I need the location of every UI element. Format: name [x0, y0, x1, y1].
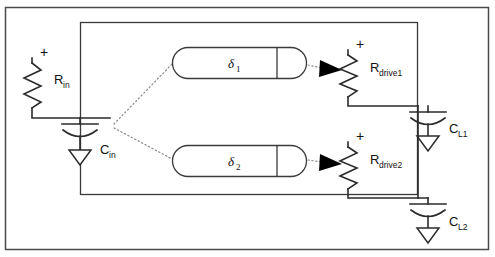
- r-drive1-label-subscript: drive1: [379, 68, 402, 78]
- c-in-label-subscript: in: [109, 150, 116, 160]
- dotted-link-to-delta1: [114, 62, 174, 124]
- ground-icon-c-in: [69, 150, 91, 165]
- r-drive1-label: R: [370, 60, 379, 75]
- delta2-label: δ: [228, 154, 235, 169]
- arrowhead-icon-drive1: [319, 60, 342, 77]
- r-drive2-bottom-lead: [348, 189, 428, 198]
- c-l2-label-subscript: L2: [458, 222, 468, 232]
- r-in-zigzag: [24, 63, 41, 108]
- r-drive2-label: R: [370, 152, 379, 167]
- r-in-plus-sign: +: [40, 44, 48, 60]
- r-drive2-zigzag: [340, 147, 357, 189]
- delta1-label-subscript: 1: [236, 64, 241, 74]
- c-l2-label: C: [449, 214, 458, 229]
- r-in-bottom-lead: [32, 108, 110, 118]
- c-l1-label-subscript: L1: [458, 129, 468, 139]
- c-in-label: C: [100, 142, 109, 157]
- r-drive1-plus-sign: +: [356, 36, 364, 52]
- r-drive1-zigzag: [340, 55, 357, 97]
- r-drive2-label-subscript: drive2: [379, 160, 402, 170]
- r-drive1-bottom-lead: [348, 97, 418, 106]
- r-drive2-plus-sign: +: [356, 128, 364, 144]
- delta1-label: δ: [228, 56, 235, 71]
- ground-icon-c-l1: [417, 136, 439, 151]
- c-l1-label: C: [449, 121, 458, 136]
- r-in-label-subscript: in: [63, 80, 70, 90]
- diagram-page: + R in C in δ 1 δ 2: [0, 0, 495, 257]
- dotted-link-to-delta2: [114, 128, 174, 160]
- arrowhead-icon-drive2: [319, 154, 342, 171]
- circuit-diagram: + R in C in δ 1 δ 2: [0, 0, 495, 257]
- ground-icon-c-l2: [417, 228, 439, 243]
- r-in-label: R: [54, 72, 63, 87]
- delta2-label-subscript: 2: [236, 162, 241, 172]
